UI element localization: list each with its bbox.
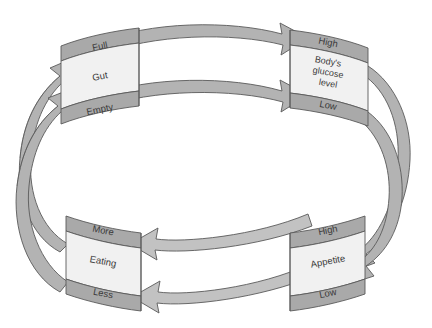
diagram-canvas: .band { fill: #a9a9a9; stroke: #5a5a5a; …	[0, 0, 432, 328]
connection-appetite-low-to-eating-less	[132, 264, 314, 313]
node-gut[interactable]: Full Gut Empty	[61, 28, 139, 124]
node-eating[interactable]: More Eating Less	[66, 216, 141, 311]
feedback-loop-diagram: .band { fill: #a9a9a9; stroke: #5a5a5a; …	[0, 0, 432, 328]
connection-appetite-high-to-eating-more	[130, 214, 312, 260]
node-glucose[interactable]: High Body's glucose level Low	[290, 30, 368, 126]
